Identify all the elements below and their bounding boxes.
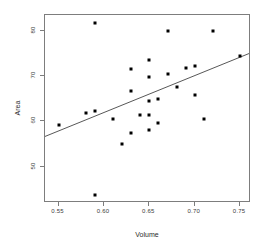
x-axis-tick-label: 0.60 [97, 208, 109, 214]
data-point [148, 58, 151, 61]
data-points-layer [45, 15, 249, 201]
y-axis-tick-mark [40, 30, 44, 31]
data-point [211, 30, 214, 33]
x-axis-title: Volume [135, 231, 158, 238]
plot-area [44, 14, 250, 202]
x-axis-tick-label: 0.70 [187, 208, 199, 214]
data-point [121, 142, 124, 145]
x-axis-tick-mark [58, 202, 59, 206]
x-axis-tick-mark [103, 202, 104, 206]
data-point [148, 113, 151, 116]
data-point [175, 86, 178, 89]
data-point [239, 54, 242, 57]
x-axis-tick-mark [148, 202, 149, 206]
data-point [148, 99, 151, 102]
data-point [57, 123, 60, 126]
x-axis-tick-mark [194, 202, 195, 206]
data-point [139, 113, 142, 116]
data-point [193, 93, 196, 96]
y-axis-tick-label: 70 [30, 72, 36, 79]
y-axis-tick-mark [40, 75, 44, 76]
x-axis-tick-label: 0.55 [51, 208, 63, 214]
data-point [157, 121, 160, 124]
y-axis-tick-mark [40, 120, 44, 121]
data-point [93, 109, 96, 112]
data-point [112, 117, 115, 120]
data-point [166, 73, 169, 76]
data-point [130, 68, 133, 71]
data-point [184, 67, 187, 70]
y-axis-tick-label: 50 [30, 162, 36, 169]
data-point [93, 22, 96, 25]
x-axis-tick-label: 0.65 [142, 208, 154, 214]
y-axis-tick-mark [40, 166, 44, 167]
data-point [130, 89, 133, 92]
data-point [202, 117, 205, 120]
y-axis-title: Area [14, 101, 21, 116]
data-point [148, 75, 151, 78]
data-point [166, 30, 169, 33]
y-axis-tick-label: 80 [30, 26, 36, 33]
data-point [193, 65, 196, 68]
data-point [84, 112, 87, 115]
scatter-plot-figure: 0.550.600.650.700.75 50607080 Volume Are… [0, 0, 267, 252]
data-point [93, 193, 96, 196]
x-axis-tick-label: 0.75 [233, 208, 245, 214]
data-point [157, 98, 160, 101]
data-point [148, 129, 151, 132]
y-axis-tick-label: 60 [30, 117, 36, 124]
data-point [130, 132, 133, 135]
x-axis-tick-mark [239, 202, 240, 206]
